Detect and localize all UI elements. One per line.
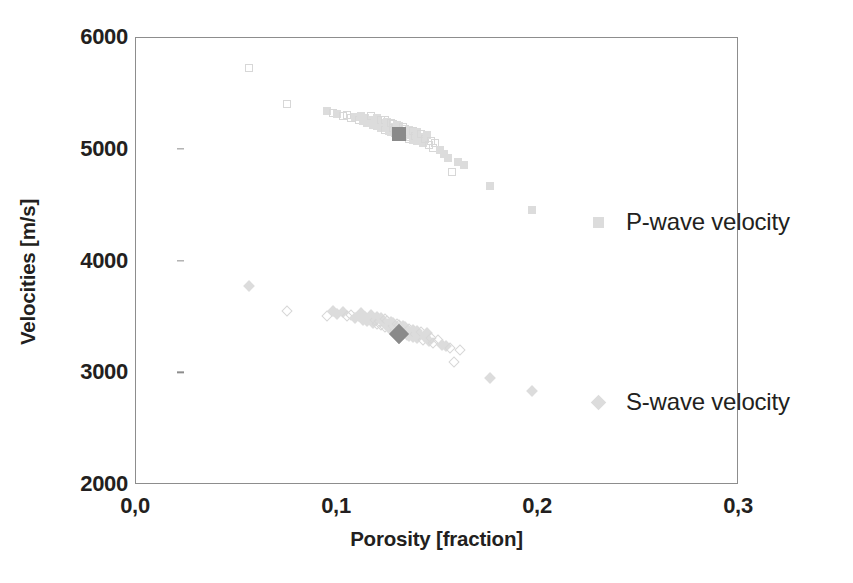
- data-point: [343, 111, 351, 119]
- data-point: [333, 110, 341, 118]
- data-point: [323, 107, 331, 115]
- data-point: [414, 330, 425, 341]
- data-point: [331, 308, 342, 319]
- data-point: [448, 168, 456, 176]
- data-point: [426, 332, 437, 343]
- data-point: [374, 316, 385, 327]
- data-point: [448, 356, 459, 367]
- data-point: [391, 129, 399, 137]
- data-point: [402, 326, 413, 337]
- data-point: [372, 311, 383, 322]
- data-point: [390, 322, 401, 333]
- data-point: [337, 307, 348, 318]
- data-point: [454, 158, 462, 166]
- data-point: [345, 309, 356, 320]
- data-point: [404, 330, 415, 341]
- data-point: [355, 307, 366, 318]
- data-point: [373, 122, 381, 130]
- y-tick-mark: [177, 372, 184, 373]
- data-point: [384, 322, 395, 333]
- scatter-chart: 20003000400050006000 0,00,10,20,3 Veloci…: [0, 0, 853, 583]
- data-point: [382, 315, 393, 326]
- data-point: [359, 312, 370, 323]
- data-point: [440, 341, 451, 352]
- data-point: [429, 144, 437, 152]
- data-point: [388, 317, 399, 328]
- y-tick-mark: [177, 260, 184, 261]
- data-point: [393, 130, 401, 138]
- data-point: [381, 126, 389, 134]
- data-point: [376, 313, 387, 324]
- data-point: [412, 333, 423, 344]
- y-tick-mark: [177, 148, 184, 149]
- data-point: [400, 322, 411, 333]
- data-point: [526, 385, 537, 396]
- data-point: [409, 127, 417, 135]
- data-point: [349, 312, 360, 323]
- data-point: [376, 320, 387, 331]
- data-point: [243, 280, 254, 291]
- x-tick-label: 0,1: [291, 493, 381, 519]
- data-point: [408, 331, 419, 342]
- data-point: [341, 311, 352, 322]
- data-point: [351, 113, 359, 121]
- data-point: [420, 331, 431, 342]
- data-point: [394, 320, 405, 331]
- data-point: [368, 317, 379, 328]
- data-point: [419, 139, 427, 147]
- data-point: [486, 182, 494, 190]
- data-point: [386, 316, 397, 327]
- data-point: [411, 132, 419, 140]
- y-tick-label: 4000: [56, 250, 128, 272]
- data-point: [377, 124, 385, 132]
- data-point: [388, 320, 399, 331]
- data-point: [347, 114, 355, 122]
- data-point: [406, 327, 417, 338]
- data-point: [378, 317, 389, 328]
- data-point: [357, 112, 365, 120]
- data-point: [398, 321, 409, 332]
- data-point: [402, 329, 413, 340]
- data-point: [436, 146, 444, 154]
- data-point: [396, 327, 407, 338]
- data-point: [395, 126, 403, 134]
- data-point: [361, 316, 372, 327]
- x-tick-label: 0,3: [693, 493, 783, 519]
- data-point: [394, 323, 405, 334]
- data-point: [428, 337, 439, 348]
- data-point: [372, 318, 383, 329]
- data-point: [385, 123, 393, 131]
- legend-item-p-wave: P-wave velocity: [593, 208, 790, 236]
- data-point: [382, 318, 393, 329]
- data-point: [484, 372, 495, 383]
- highlighted-data-point: [389, 324, 409, 344]
- data-point: [422, 328, 433, 339]
- data-point: [444, 342, 455, 353]
- data-point: [400, 325, 411, 336]
- data-point: [353, 311, 364, 322]
- data-point: [283, 100, 291, 108]
- data-point: [423, 131, 431, 139]
- data-point: [386, 323, 397, 334]
- data-point: [403, 130, 411, 138]
- data-point: [421, 135, 429, 143]
- plot-area: [135, 37, 738, 484]
- data-point: [365, 116, 373, 124]
- data-point: [431, 139, 439, 147]
- data-point: [401, 125, 409, 133]
- data-point: [398, 328, 409, 339]
- data-point: [427, 137, 435, 145]
- data-point: [432, 334, 443, 345]
- data-point: [383, 122, 391, 130]
- data-point: [387, 119, 395, 127]
- data-point: [380, 321, 391, 332]
- data-point: [329, 109, 337, 117]
- data-point: [327, 305, 338, 316]
- data-point: [379, 120, 387, 128]
- data-point: [407, 131, 415, 139]
- data-point: [409, 136, 417, 144]
- data-point: [416, 326, 427, 337]
- data-point: [393, 121, 401, 129]
- data-point: [392, 326, 403, 337]
- data-point: [405, 135, 413, 143]
